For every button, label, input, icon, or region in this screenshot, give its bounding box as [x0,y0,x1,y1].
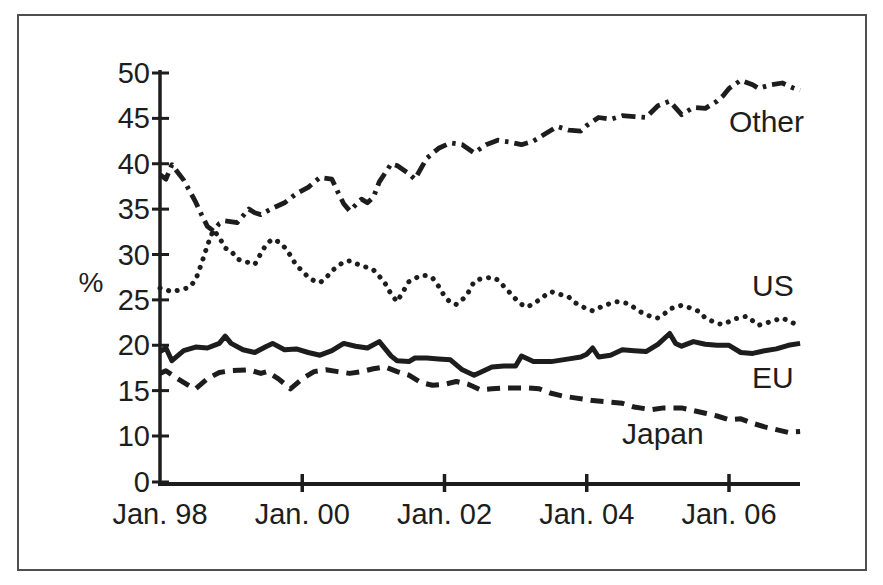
series-line-eu [160,334,800,376]
y-tick-label-45: 45 [118,102,150,134]
x-tick-label-jan-98: Jan. 98 [112,498,207,530]
line-chart: 5045403530252015100%Jan. 98Jan. 00Jan. 0… [0,0,883,585]
y-tick-label-25: 25 [118,284,150,316]
y-tick-label-10: 10 [118,420,150,452]
y-tick-label-15: 15 [118,375,150,407]
y-tick-label-50: 50 [118,57,150,89]
y-tick-label-20: 20 [118,329,150,361]
series-label-other: Other [729,105,804,138]
y-tick-label-35: 35 [118,193,150,225]
series-line-us [160,230,800,328]
y-tick-label-40: 40 [118,148,150,180]
x-tick-label-jan-04: Jan. 04 [539,498,634,530]
y-tick-label-30: 30 [118,239,150,271]
x-tick-label-jan-02: Jan. 02 [397,498,492,530]
y-axis-unit-label: % [79,267,104,298]
x-tick-label-jan-00: Jan. 00 [255,498,350,530]
series-label-japan: Japan [622,417,704,450]
series-label-us: US [752,269,794,302]
x-tick-label-jan-06: Jan. 06 [681,498,776,530]
series-line-japan [160,367,800,432]
scanned-figure: 5045403530252015100%Jan. 98Jan. 00Jan. 0… [0,0,883,585]
y-tick-label-0: 0 [134,466,150,498]
series-line-other [160,80,800,231]
series-label-eu: EU [752,361,794,394]
